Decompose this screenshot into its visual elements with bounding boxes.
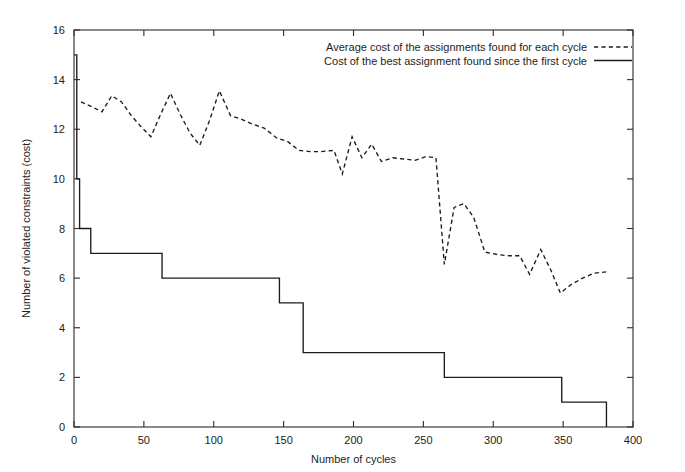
y-tick-label: 16 xyxy=(53,24,65,36)
x-tick-label: 350 xyxy=(554,434,572,446)
x-tick-label: 100 xyxy=(205,434,223,446)
y-tick-label: 12 xyxy=(53,123,65,135)
x-tick-label: 0 xyxy=(71,434,77,446)
y-axis-ticks: 0246810121416 xyxy=(53,24,633,433)
chart-canvas: 0246810121416 050100150200250300350400 A… xyxy=(0,0,685,472)
x-tick-label: 300 xyxy=(484,434,502,446)
y-tick-label: 10 xyxy=(53,173,65,185)
y-axis-title: Number of violated constraints (cost) xyxy=(20,139,32,318)
y-tick-label: 4 xyxy=(59,322,65,334)
chart-figure: 0246810121416 050100150200250300350400 A… xyxy=(0,0,685,472)
series-layer xyxy=(74,55,606,427)
x-tick-label: 50 xyxy=(138,434,150,446)
series-average-cost xyxy=(81,91,606,293)
x-axis-title: Number of cycles xyxy=(311,453,396,465)
plot-frame xyxy=(74,30,633,427)
x-tick-label: 200 xyxy=(344,434,362,446)
y-tick-label: 14 xyxy=(53,74,65,86)
y-tick-label: 0 xyxy=(59,421,65,433)
x-tick-label: 400 xyxy=(624,434,642,446)
x-axis-ticks: 050100150200250300350400 xyxy=(71,30,642,446)
legend-entry-label: Average cost of the assignments found fo… xyxy=(326,41,587,53)
y-tick-label: 6 xyxy=(59,272,65,284)
chart-legend: Average cost of the assignments found fo… xyxy=(324,41,632,67)
series-best-cost xyxy=(74,55,606,427)
y-tick-label: 2 xyxy=(59,371,65,383)
y-tick-label: 8 xyxy=(59,223,65,235)
legend-entry-label: Cost of the best assignment found since … xyxy=(324,55,587,67)
x-tick-label: 150 xyxy=(274,434,292,446)
plot-border xyxy=(74,30,633,427)
x-tick-label: 250 xyxy=(414,434,432,446)
